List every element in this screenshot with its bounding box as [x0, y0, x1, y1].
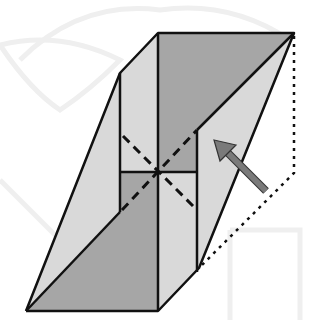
origami-diagram	[0, 0, 318, 323]
diagram-canvas: Origami fold step: reverse fold along di…	[0, 0, 318, 323]
